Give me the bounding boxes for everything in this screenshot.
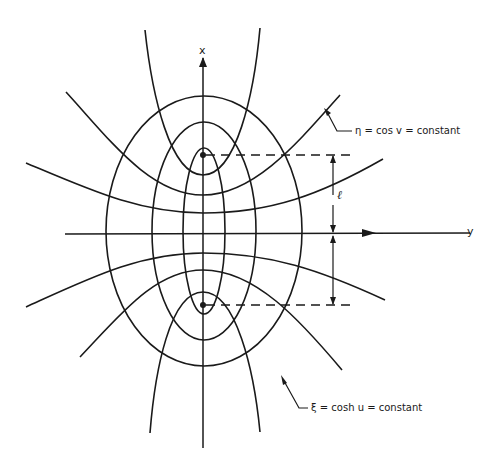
leader-lines — [281, 108, 352, 408]
hyperbola-family — [26, 28, 385, 433]
ellipse-annotation: ξ = cosh u = constant — [311, 403, 422, 413]
inner-ellipse — [183, 148, 225, 314]
dimension-label: ℓ — [337, 189, 342, 201]
elliptic-coordinates-diagram — [0, 0, 501, 472]
y-axis-label: y — [467, 226, 474, 237]
y-axis — [65, 233, 470, 234]
upper-hyperbola-outer — [26, 159, 383, 213]
lower-hyperbola-outer — [26, 253, 385, 307]
focus-lower — [200, 302, 206, 308]
outer-ellipse — [106, 96, 302, 366]
ellipse-family — [106, 96, 302, 366]
lower-hyperbola-middle — [80, 270, 342, 370]
hyperbola-annotation: η = cos v = constant — [355, 126, 460, 136]
focus-upper — [200, 152, 206, 158]
x-axis-label: x — [199, 45, 206, 56]
y-axis-arrowhead — [362, 229, 376, 237]
